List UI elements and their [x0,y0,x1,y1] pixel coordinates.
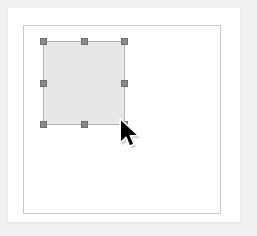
resize-handle-middle-left[interactable] [40,80,47,87]
resize-handle-bottom-center[interactable] [81,121,88,128]
selected-rectangle[interactable] [43,41,125,125]
resize-handle-top-right[interactable] [121,38,128,45]
resize-handle-bottom-right[interactable] [121,121,128,128]
resize-handle-middle-right[interactable] [121,80,128,87]
app-root [0,0,257,236]
drawing-canvas[interactable] [23,25,221,214]
resize-handle-top-left[interactable] [40,38,47,45]
editor-panel [8,8,240,222]
resize-handle-bottom-left[interactable] [40,121,47,128]
resize-handle-top-center[interactable] [81,38,88,45]
